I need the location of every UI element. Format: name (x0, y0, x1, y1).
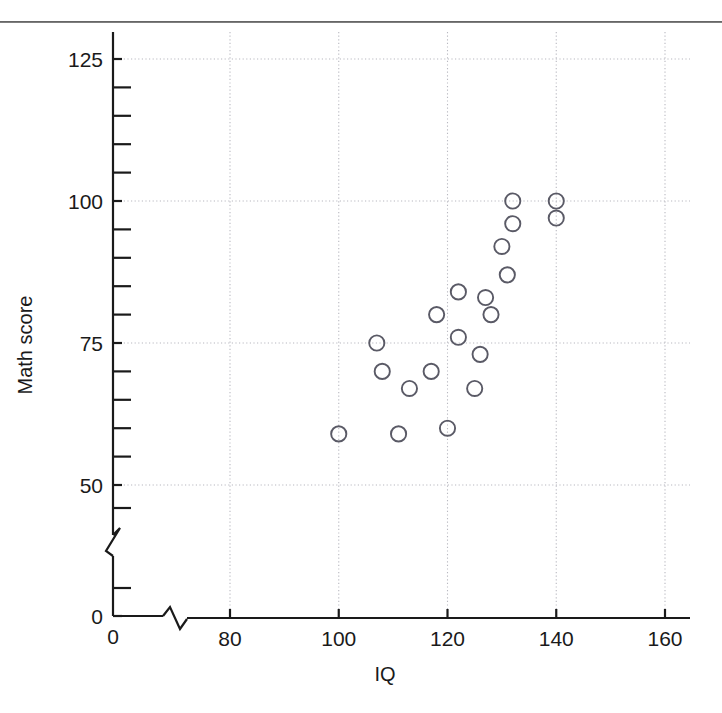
data-point-marker (467, 381, 482, 396)
data-point-marker (451, 284, 466, 299)
data-point-marker (500, 267, 515, 282)
top-divider-rule (0, 21, 722, 23)
y-axis-tick-label: 100 (68, 190, 103, 213)
x-axis-ticks-group (230, 609, 665, 618)
data-point-marker (391, 426, 406, 441)
y-axis-title: Math score (14, 296, 36, 395)
data-point-marker (478, 290, 493, 305)
data-point-marker (375, 364, 390, 379)
y-axis-tick-label: 50 (80, 474, 103, 497)
data-point-marker (402, 381, 417, 396)
x-axis-tick-label: 140 (539, 627, 574, 650)
plot-canvas: 05075100125 080100120140160 IQ Math scor… (0, 0, 722, 713)
scatter-plot-figure: 05075100125 080100120140160 IQ Math scor… (0, 0, 722, 713)
data-point-marker (424, 364, 439, 379)
y-axis-tick-label: 0 (91, 605, 103, 628)
data-point-marker (473, 347, 488, 362)
data-point-marker (429, 307, 444, 322)
y-axis-tick-labels-group: 05075100125 (68, 48, 103, 628)
gridlines-group (113, 32, 690, 616)
x-axis-tick-label: 0 (107, 625, 119, 648)
x-axis-break-symbol (163, 607, 187, 629)
x-axis-tick-label: 160 (647, 627, 682, 650)
x-axis-tick-label: 80 (218, 627, 241, 650)
x-axis-tick-label: 100 (321, 627, 356, 650)
y-axis-tick-label: 125 (68, 48, 103, 71)
data-point-marker (483, 307, 498, 322)
data-point-marker (451, 330, 466, 345)
y-axis-tick-label: 75 (80, 332, 103, 355)
x-axis-tick-label: 120 (430, 627, 465, 650)
data-point-marker (494, 239, 509, 254)
x-axis-tick-labels-group: 080100120140160 (107, 625, 682, 650)
data-point-marker (505, 216, 520, 231)
x-axis-title: IQ (374, 663, 395, 685)
